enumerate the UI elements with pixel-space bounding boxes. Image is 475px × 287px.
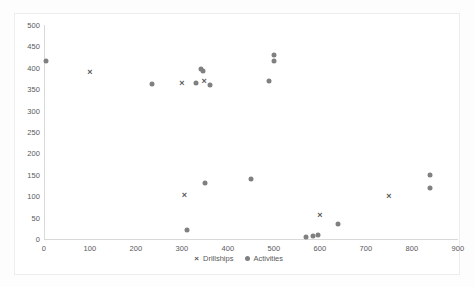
- data-point-activities: [150, 82, 155, 87]
- screenshot-root: 050100150200250300350400450500 010020030…: [0, 0, 475, 287]
- data-point-activities: [428, 185, 433, 190]
- y-tick-label: 150: [16, 170, 40, 179]
- legend-item-drillships[interactable]: × Drillships: [193, 254, 233, 263]
- data-point-drillships: [87, 69, 94, 76]
- x-tick-label: 600: [305, 244, 335, 253]
- x-tick-label: 800: [397, 244, 427, 253]
- data-point-activities: [184, 227, 189, 232]
- x-tick-label: 900: [443, 244, 473, 253]
- plot-area: [44, 25, 458, 239]
- data-point-activities: [304, 234, 309, 239]
- y-tick-label: 400: [16, 63, 40, 72]
- y-tick-label: 450: [16, 42, 40, 51]
- x-tick-label: 200: [121, 244, 151, 253]
- y-tick-label: 0: [16, 235, 40, 244]
- y-tick-label: 500: [16, 21, 40, 30]
- x-axis-line: [44, 239, 458, 240]
- y-tick-label: 200: [16, 149, 40, 158]
- data-point-activities: [44, 59, 49, 64]
- data-point-activities: [200, 69, 205, 74]
- legend-label-activities: Activities: [253, 254, 283, 263]
- y-tick-label: 100: [16, 192, 40, 201]
- data-point-drillships: [179, 79, 186, 86]
- x-tick-label: 0: [29, 244, 59, 253]
- data-point-activities: [203, 181, 208, 186]
- cross-marker-icon: ×: [193, 255, 200, 262]
- data-point-activities: [267, 79, 272, 84]
- data-point-drillships: [317, 212, 324, 219]
- legend-label-drillships: Drillships: [203, 254, 233, 263]
- x-tick-label: 300: [167, 244, 197, 253]
- data-point-activities: [207, 82, 212, 87]
- data-point-activities: [272, 52, 277, 57]
- data-point-activities: [428, 172, 433, 177]
- legend-item-activities[interactable]: Activities: [245, 254, 283, 263]
- y-tick-label: 50: [16, 213, 40, 222]
- y-tick-label: 350: [16, 85, 40, 94]
- data-point-activities: [315, 232, 320, 237]
- x-tick-label: 500: [259, 244, 289, 253]
- plot-wrapper: 050100150200250300350400450500 010020030…: [15, 14, 461, 276]
- data-point-activities: [193, 80, 198, 85]
- x-tick-label: 700: [351, 244, 381, 253]
- dot-marker-icon: [245, 256, 250, 261]
- data-point-activities: [272, 59, 277, 64]
- data-point-activities: [336, 222, 341, 227]
- scatter-chart: 050100150200250300350400450500 010020030…: [14, 13, 460, 275]
- y-tick-label: 300: [16, 106, 40, 115]
- data-point-drillships: [181, 192, 188, 199]
- x-tick-label: 100: [75, 244, 105, 253]
- data-point-activities: [249, 177, 254, 182]
- y-tick-label: 250: [16, 128, 40, 137]
- chart-legend: × Drillships Activities: [15, 254, 461, 263]
- x-tick-label: 400: [213, 244, 243, 253]
- data-point-drillships: [386, 193, 393, 200]
